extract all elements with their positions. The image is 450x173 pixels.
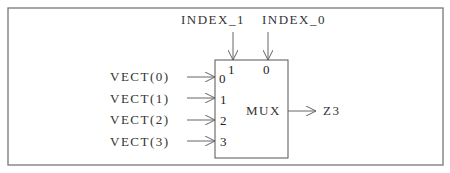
data-input-label-0: VECT(0) — [110, 69, 170, 84]
mux-block-label: MUX — [246, 103, 281, 118]
data-input-label-2: VECT(2) — [110, 112, 170, 127]
data-pin-3: 3 — [220, 134, 227, 149]
select-label-index-1: INDEX_1 — [181, 12, 245, 27]
data-input-label-3: VECT(3) — [110, 134, 170, 149]
data-pin-1: 1 — [220, 92, 227, 107]
select-pin-0: 0 — [263, 62, 270, 77]
output-label: Z3 — [323, 103, 340, 118]
data-pin-2: 2 — [220, 113, 227, 128]
mux-diagram: INDEX_1 INDEX_0 MUX 1 0 VECT(0) VECT(1) … — [0, 0, 450, 173]
data-input-label-1: VECT(1) — [110, 91, 170, 106]
data-pin-0: 0 — [219, 71, 226, 86]
select-label-index-0: INDEX_0 — [262, 12, 326, 27]
select-pin-1: 1 — [228, 62, 235, 77]
